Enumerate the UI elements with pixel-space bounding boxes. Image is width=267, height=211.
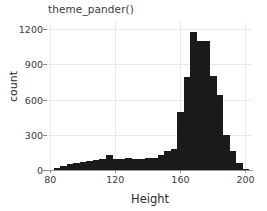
y-tick-label-300: 300 [25,129,43,140]
x-tick-label-200: 200 [236,174,254,185]
x-tick-label-160: 160 [171,174,189,185]
x-tick-120 [115,170,116,173]
y-tick-600 [43,100,47,101]
x-tick-80 [50,170,51,173]
chart-title: theme_pander() [48,3,134,15]
y-tick-0 [43,170,47,171]
x-axis-title: Height [47,192,253,206]
y-tick-label-0: 0 [37,165,43,176]
y-tick-label-1200: 1200 [19,24,43,35]
y-tick-300 [43,135,47,136]
y-tick-1200 [43,29,47,30]
x-tick-label-80: 80 [44,174,56,185]
y-axis-title: count [7,57,20,117]
y-tick-label-900: 900 [25,59,43,70]
x-tick-200 [245,170,246,173]
x-tick-label-120: 120 [106,174,124,185]
x-axis-line [47,170,253,171]
y-tick-label-600: 600 [25,94,43,105]
histogram-bars [47,22,252,170]
x-tick-160 [180,170,181,173]
y-tick-900 [43,64,47,65]
chart-figure: theme_pander() count Height 030060090012… [0,0,267,211]
plot-panel [47,22,252,170]
